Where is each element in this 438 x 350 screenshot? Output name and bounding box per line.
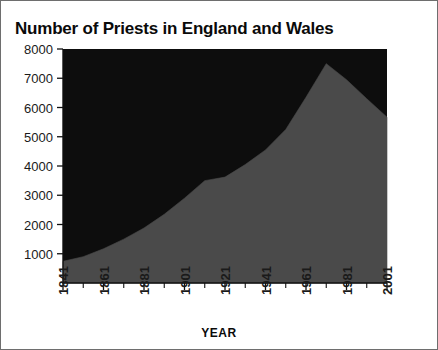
x-tick-label: 1901 [178, 266, 193, 295]
y-tick-label: 3000 [24, 188, 53, 203]
y-tick-label: 7000 [24, 71, 53, 86]
x-axis-title: YEAR [1, 326, 437, 340]
x-tick-label: 1841 [56, 266, 71, 295]
x-tick-label: 1881 [137, 266, 152, 295]
x-tick-label: 1861 [97, 266, 112, 295]
x-tick-label: 2001 [380, 266, 395, 295]
x-tick-label: 1961 [299, 266, 314, 295]
y-tick-label: 2000 [24, 218, 53, 233]
y-tick-label: 6000 [24, 101, 53, 116]
chart-plot-area: 8000700060005000400030002000100018411861… [1, 1, 438, 350]
chart-figure: Number of Priests in England and Wales 8… [0, 0, 438, 350]
x-tick-label: 1941 [259, 266, 274, 295]
x-tick-label: 1981 [340, 266, 355, 295]
y-tick-label: 5000 [24, 130, 53, 145]
y-tick-label: 4000 [24, 159, 53, 174]
x-tick-label: 1921 [218, 266, 233, 295]
y-tick-label: 8000 [24, 42, 53, 57]
y-tick-label: 1000 [24, 247, 53, 262]
